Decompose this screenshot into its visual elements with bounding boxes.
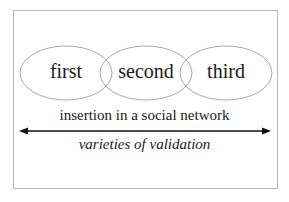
label-third: third (186, 60, 266, 83)
label-first: first (26, 60, 106, 83)
double-arrow (19, 128, 271, 135)
axis-label-varieties: varieties of validation (0, 136, 289, 153)
axis-label-insertion: insertion in a social network (0, 107, 289, 124)
diagram-graphics (0, 0, 289, 202)
label-second: second (106, 60, 186, 83)
